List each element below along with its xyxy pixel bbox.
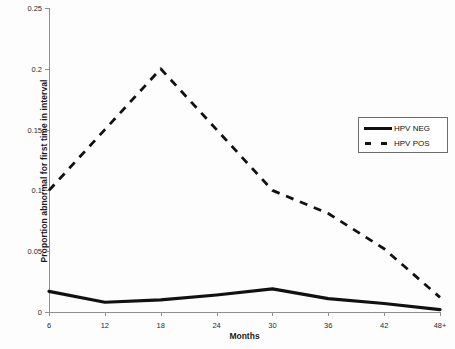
x-tick-label: 12	[101, 321, 109, 330]
legend-item-hpv-neg: HPV NEG	[364, 122, 430, 134]
chart-figure: Proportion abnormal for first time in in…	[0, 0, 455, 349]
solid-line-key	[364, 123, 392, 133]
series-plot	[49, 8, 440, 313]
y-tick-label: 0	[38, 308, 42, 317]
x-tick-label: 42	[380, 321, 388, 330]
x-tick-label: 30	[268, 321, 276, 330]
x-tick-label: 6	[47, 321, 51, 330]
series-line-hpv-pos	[49, 69, 440, 298]
y-axis-title: Proportion abnormal for first time in in…	[39, 41, 49, 301]
y-tick-label: 0.25	[27, 4, 42, 13]
legend-label-hpv-neg: HPV NEG	[394, 124, 430, 133]
x-tick-mark	[440, 312, 441, 316]
legend-label-hpv-pos: HPV POS	[394, 139, 430, 148]
chart-legend: HPV NEG HPV POS	[358, 117, 448, 153]
y-tick-label: 0.15	[27, 125, 42, 134]
plot-area: 00.050.10.150.20.25 612182430364248+	[49, 8, 440, 312]
y-tick-label: 0.1	[32, 186, 42, 195]
x-axis-title: Months	[49, 331, 440, 341]
x-tick-label: 36	[324, 321, 332, 330]
dashed-line-key	[364, 138, 392, 148]
y-tick-label: 0.05	[27, 247, 42, 256]
x-tick-label: 18	[157, 321, 165, 330]
x-tick-label: 48+	[434, 321, 447, 330]
x-tick-label: 24	[212, 321, 220, 330]
y-tick-label: 0.2	[32, 64, 42, 73]
legend-item-hpv-pos: HPV POS	[364, 137, 430, 149]
series-line-hpv-neg	[49, 289, 440, 310]
